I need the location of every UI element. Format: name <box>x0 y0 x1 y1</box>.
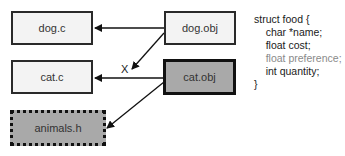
node-label: animals.h <box>34 122 81 134</box>
struct-code-block: struct food { char *name; float cost; fl… <box>254 13 342 91</box>
code-line: char *name; <box>254 26 342 39</box>
arrow-dogobj-to-catc <box>132 33 164 69</box>
code-line: float cost; <box>254 39 342 52</box>
node-dog-c: dog.c <box>11 11 93 45</box>
node-label: cat.obj <box>183 71 215 83</box>
node-label: dog.obj <box>182 22 218 34</box>
node-dog-obj: dog.obj <box>164 11 236 45</box>
node-cat-obj: cat.obj <box>163 59 236 95</box>
code-line: struct food { <box>254 13 342 26</box>
code-line-muted: float preference; <box>254 52 342 65</box>
node-animals-h: animals.h <box>10 110 106 146</box>
node-cat-c: cat.c <box>11 60 93 94</box>
code-line: } <box>254 78 342 91</box>
broken-link-mark: X <box>121 63 128 75</box>
arrow-catobj-to-animalsh <box>107 82 164 128</box>
code-line: int quantity; <box>254 65 342 78</box>
node-label: cat.c <box>40 71 63 83</box>
node-label: dog.c <box>39 22 66 34</box>
